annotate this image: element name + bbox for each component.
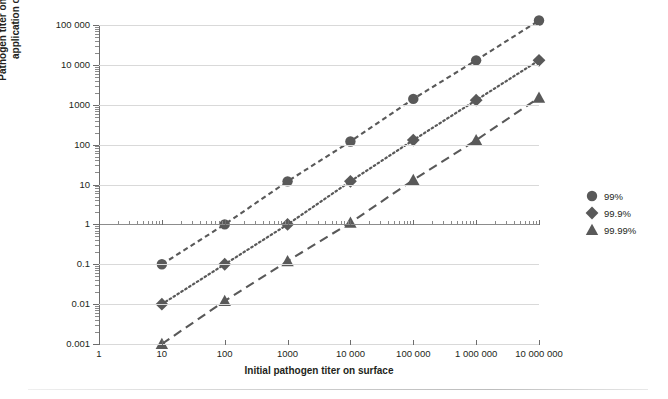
x-axis-minor-tick (470, 221, 471, 224)
series-1 (157, 15, 545, 269)
y-axis-minor-tick (95, 117, 99, 118)
x-axis-minor-tick (285, 221, 286, 224)
y-axis-minor-tick (95, 245, 99, 246)
y-axis-tick-label: 10 000 (10, 60, 90, 70)
y-axis-minor-tick (95, 276, 99, 277)
y-axis-minor-tick (95, 34, 99, 35)
x-axis-minor-tick (192, 221, 193, 224)
x-axis-minor-tick (318, 221, 319, 224)
y-axis-minor-tick (95, 188, 99, 189)
legend-item-99.9[interactable]: 99.9% (585, 205, 665, 221)
y-axis-minor-tick (95, 316, 99, 317)
x-axis-minor-tick (336, 221, 337, 224)
y-axis-tick (93, 65, 99, 66)
x-axis-baseline-tick (288, 340, 289, 345)
data-point-marker (408, 94, 418, 104)
y-axis-tick (93, 25, 99, 26)
x-axis-minor-tick (407, 221, 408, 224)
x-axis-tick (288, 220, 289, 225)
x-axis-tick (539, 220, 540, 225)
x-axis-tick (162, 220, 163, 225)
data-point-marker (407, 174, 419, 185)
x-axis-minor-tick (200, 221, 201, 224)
y-axis-tick (93, 264, 99, 265)
y-axis-minor-tick (95, 228, 99, 229)
y-axis-minor-tick (95, 46, 99, 47)
y-axis-minor-tick (95, 320, 99, 321)
x-axis-minor-tick (457, 221, 458, 224)
x-axis-baseline-tick (476, 340, 477, 345)
x-axis-minor-tick (514, 221, 515, 224)
x-axis-minor-tick (143, 221, 144, 224)
x-axis-minor-tick (506, 221, 507, 224)
y-axis-tick-label: 1000 (10, 100, 90, 110)
x-axis-minor-tick (344, 221, 345, 224)
y-axis-minor-tick (95, 148, 99, 149)
x-axis-minor-tick (404, 221, 405, 224)
x-axis-minor-tick (118, 221, 119, 224)
x-axis-minor-tick (215, 221, 216, 224)
y-gridline (99, 344, 539, 345)
y-gridline (99, 105, 539, 106)
x-axis-minor-tick (533, 221, 534, 224)
y-axis-minor-tick (95, 41, 99, 42)
x-axis-minor-tick (443, 221, 444, 224)
legend-label: 99% (604, 191, 623, 202)
x-axis-minor-tick (462, 221, 463, 224)
triangle-marker-icon (585, 223, 599, 237)
plot-area (99, 25, 539, 344)
series-2 (155, 54, 545, 311)
x-axis-minor-tick (410, 221, 411, 224)
legend-item-99[interactable]: 99% (585, 188, 665, 204)
x-axis-minor-tick (348, 221, 349, 224)
x-axis-minor-tick (211, 221, 212, 224)
y-axis-minor-tick (95, 252, 99, 253)
x-axis-minor-tick (380, 221, 381, 224)
page-rule (28, 389, 648, 390)
y-axis-minor-tick (95, 133, 99, 134)
x-axis-minor-tick (399, 221, 400, 224)
y-axis-minor-tick (95, 86, 99, 87)
y-axis-minor-tick (95, 31, 99, 32)
y-axis-minor-tick (95, 74, 99, 75)
x-axis-minor-tick (495, 221, 496, 224)
x-axis-minor-tick (255, 221, 256, 224)
chart-legend: 99%99.9%99.99% (585, 188, 665, 239)
x-axis-minor-tick (269, 221, 270, 224)
y-axis-minor-tick (95, 200, 99, 201)
x-axis-minor-tick (159, 221, 160, 224)
x-axis-tick-label: 10 000 000 (494, 348, 584, 359)
y-axis-minor-tick (95, 77, 99, 78)
x-axis-minor-tick (325, 221, 326, 224)
y-axis-minor-tick (95, 53, 99, 54)
y-axis-minor-tick (95, 233, 99, 234)
y-axis-minor-tick (95, 226, 99, 227)
y-gridline (99, 264, 539, 265)
x-axis-minor-tick (137, 221, 138, 224)
x-axis-minor-tick (263, 221, 264, 224)
y-axis-minor-tick (95, 27, 99, 28)
y-axis-tick-label: 1 (10, 219, 90, 229)
y-axis-minor-tick (95, 81, 99, 82)
y-axis-tick (93, 304, 99, 305)
y-axis-minor-tick (95, 306, 99, 307)
x-axis-minor-tick (394, 221, 395, 224)
x-axis-minor-tick (332, 221, 333, 224)
legend-item-99.99[interactable]: 99.99% (585, 222, 665, 238)
x-axis-baseline-tick (99, 340, 100, 345)
y-axis-minor-tick (95, 191, 99, 192)
y-axis-minor-tick (95, 109, 99, 110)
x-axis-minor-tick (466, 221, 467, 224)
y-axis-minor-tick (95, 197, 99, 198)
y-axis-minor-tick (95, 37, 99, 38)
x-axis-minor-tick (369, 221, 370, 224)
x-axis-minor-tick (432, 221, 433, 224)
x-axis-tick (350, 220, 351, 225)
legend-label: 99.9% (604, 208, 631, 219)
x-axis-minor-tick (281, 221, 282, 224)
x-axis-title: Initial pathogen titer on surface (99, 365, 539, 376)
x-axis-baseline-tick (225, 340, 226, 345)
x-axis-baseline-tick (413, 340, 414, 345)
y-axis-minor-tick (95, 121, 99, 122)
y-axis-minor-tick (95, 266, 99, 267)
